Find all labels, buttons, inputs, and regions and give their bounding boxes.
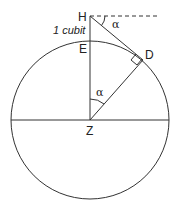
label-alpha-top: α xyxy=(112,18,120,31)
geometry-diagram: H 1 cubit E D Z α α xyxy=(0,0,178,209)
label-height: 1 cubit xyxy=(53,24,86,36)
label-h: H xyxy=(78,10,87,24)
label-e: E xyxy=(79,42,87,56)
angle-arc-z xyxy=(90,99,104,104)
angle-arc-h xyxy=(102,16,106,26)
label-d: D xyxy=(145,48,154,62)
label-alpha-center: α xyxy=(96,86,104,99)
label-z: Z xyxy=(86,124,93,138)
